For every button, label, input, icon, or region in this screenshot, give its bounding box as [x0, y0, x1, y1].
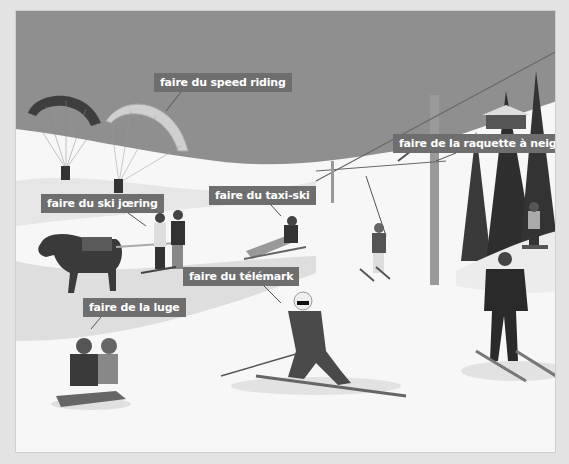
- illustration-frame: faire du speed riding faire de la raquet…: [15, 10, 556, 453]
- label-telemark: faire du télémark: [183, 267, 299, 286]
- label-speed-riding: faire du speed riding: [154, 73, 292, 92]
- label-taxi-ski: faire du taxi-ski: [209, 186, 316, 205]
- label-ski-joering: faire du ski jœring: [41, 194, 164, 213]
- label-raquette-a-neige: faire de la raquette à neige: [393, 134, 556, 153]
- ski-lift-pole: [430, 95, 439, 285]
- label-luge: faire de la luge: [83, 298, 186, 317]
